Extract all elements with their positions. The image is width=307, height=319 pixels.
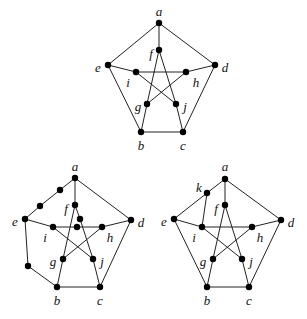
- vertex-d: [212, 62, 218, 68]
- vertex-label-h: h: [107, 230, 114, 245]
- edge-f-j: [159, 50, 176, 104]
- vertex-a: [72, 175, 78, 181]
- edge-c-j: [176, 104, 183, 132]
- vertex-f: [156, 47, 162, 53]
- edge-d-h: [102, 220, 131, 227]
- vertex-d: [278, 217, 284, 223]
- vertex-a: [222, 176, 228, 182]
- vertex-h: [249, 224, 255, 230]
- edge-k-i: [202, 193, 207, 227]
- vertex-label-e: e: [161, 214, 167, 229]
- edge-i-j: [202, 227, 242, 259]
- vertex-c: [97, 284, 103, 290]
- vertex-label-j: j: [181, 99, 187, 114]
- edge-s5-b: [28, 266, 57, 287]
- vertex-label-f: f: [64, 201, 70, 216]
- vertex-label-g: g: [135, 99, 142, 114]
- vertex-d: [128, 217, 134, 223]
- vertex-k: [204, 190, 210, 196]
- vertex-label-a: a: [72, 159, 79, 174]
- edge-e-i: [108, 65, 136, 72]
- vertex-label-b: b: [54, 293, 61, 308]
- vertex-f: [222, 202, 228, 208]
- vertex-s2: [37, 203, 43, 209]
- vertex-g: [60, 256, 66, 262]
- vertex-label-f: f: [149, 46, 155, 61]
- vertex-label-i: i: [43, 230, 47, 245]
- petersen-with-vertex-k: abcdefghijk: [161, 159, 295, 308]
- edge-a-d: [225, 179, 281, 220]
- edge-e-i: [174, 219, 202, 227]
- vertex-label-g: g: [200, 254, 207, 269]
- figure-canvas: abcdefghijabcdefghijabcdefghijk: [0, 0, 307, 319]
- vertex-j: [173, 101, 179, 107]
- vertex-label-d: d: [288, 215, 295, 230]
- vertex-label-c: c: [180, 138, 186, 153]
- vertex-i: [50, 224, 56, 230]
- vertex-i: [133, 69, 139, 75]
- edge-d-c: [100, 220, 131, 287]
- vertex-label-h: h: [257, 230, 264, 245]
- vertex-b: [138, 129, 144, 135]
- edge-b-g: [141, 104, 147, 132]
- vertex-g: [144, 101, 150, 107]
- vertex-label-a: a: [222, 159, 229, 174]
- vertex-h: [99, 224, 105, 230]
- vertex-a: [156, 20, 162, 26]
- edge-i-j: [53, 227, 93, 259]
- vertex-label-c: c: [246, 293, 252, 308]
- vertex-b: [54, 284, 60, 290]
- vertex-j: [90, 256, 96, 262]
- edge-a-k: [207, 179, 225, 193]
- graphs-layer: abcdefghijabcdefghijabcdefghijk: [12, 4, 295, 308]
- vertex-label-d: d: [222, 60, 229, 75]
- edge-k-e: [174, 193, 207, 219]
- edge-c-j: [242, 259, 249, 287]
- edge-c-j: [93, 259, 100, 287]
- vertex-f: [72, 202, 78, 208]
- vertex-label-e: e: [12, 214, 18, 229]
- vertex-e: [171, 216, 177, 222]
- vertex-g: [210, 256, 216, 262]
- vertex-label-e: e: [95, 60, 101, 75]
- vertex-label-i: i: [126, 75, 130, 90]
- vertex-s1: [57, 187, 63, 193]
- vertex-label-b: b: [204, 293, 211, 308]
- vertex-label-b: b: [138, 138, 145, 153]
- vertex-h: [183, 69, 189, 75]
- subdivided-petersen-graph: abcdefghij: [12, 159, 145, 308]
- edge-s1-s2: [40, 190, 60, 206]
- edge-a-d: [159, 23, 215, 65]
- edge-b-g: [207, 259, 213, 287]
- vertex-label-d: d: [138, 215, 145, 230]
- vertex-j: [239, 256, 245, 262]
- vertex-b: [204, 284, 210, 290]
- vertex-s3: [77, 216, 83, 222]
- vertex-label-c: c: [97, 293, 103, 308]
- vertex-s4: [74, 224, 80, 230]
- edge-a-d: [75, 178, 131, 220]
- vertex-e: [105, 62, 111, 68]
- vertex-i: [199, 224, 205, 230]
- edge-i-j: [136, 72, 176, 104]
- vertex-label-j: j: [247, 254, 253, 269]
- vertex-e: [22, 216, 28, 222]
- edge-f-j: [225, 205, 242, 259]
- vertex-c: [180, 129, 186, 135]
- petersen-graph: abcdefghij: [95, 4, 229, 153]
- edge-d-c: [249, 220, 281, 287]
- edge-e-i: [25, 219, 53, 227]
- vertex-label-a: a: [156, 4, 163, 19]
- vertex-label-f: f: [214, 201, 220, 216]
- vertex-label-k: k: [196, 180, 202, 195]
- vertex-s5: [25, 263, 31, 269]
- vertex-label-j: j: [98, 254, 104, 269]
- edge-d-h: [186, 65, 215, 72]
- vertex-label-g: g: [50, 254, 57, 269]
- vertex-c: [246, 284, 252, 290]
- edge-b-g: [57, 259, 63, 287]
- vertex-label-h: h: [193, 75, 200, 90]
- edge-s3-j: [80, 219, 93, 259]
- vertex-label-i: i: [192, 230, 196, 245]
- edge-e-s5: [25, 219, 28, 266]
